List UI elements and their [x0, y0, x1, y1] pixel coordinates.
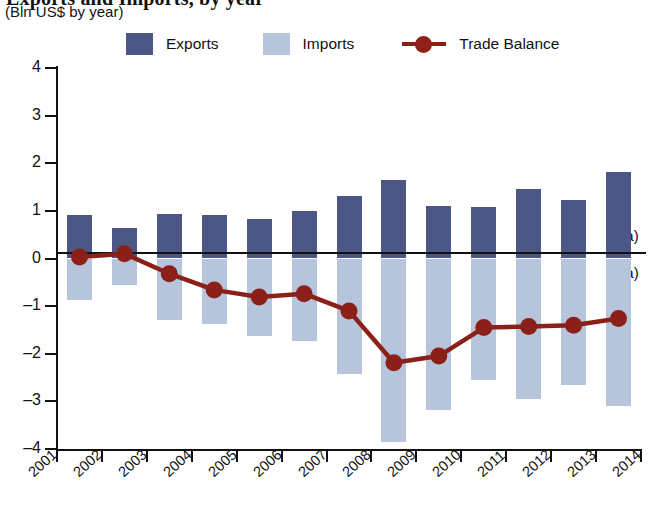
x-axis — [56, 449, 641, 451]
bar-export — [606, 172, 631, 259]
bar-export — [561, 200, 586, 258]
bar-import — [112, 259, 137, 285]
x-axis-tick-label: 2007 — [295, 446, 330, 479]
bar-import — [561, 259, 586, 385]
y-axis-tick-label: 0 — [15, 249, 41, 267]
y-axis-tick — [45, 115, 57, 117]
y-axis-tick-label: 2 — [15, 153, 41, 171]
bar-import — [67, 259, 92, 301]
bar-export — [426, 206, 451, 258]
y-axis-tick — [45, 162, 57, 164]
y-axis-tick-label: –3 — [15, 391, 41, 409]
x-axis-tick-label: 2013 — [564, 446, 599, 479]
bar-export — [337, 196, 362, 259]
bar-import — [471, 259, 496, 380]
zero-baseline — [56, 252, 646, 254]
y-axis-tick-label: 3 — [15, 106, 41, 124]
x-axis-tick-label: 2009 — [384, 446, 419, 479]
bar-import — [202, 259, 227, 325]
x-axis-tick-label: 2003 — [115, 446, 150, 479]
chart-plot: 43210–1–2–3–4 20012002200320042005200620… — [0, 0, 661, 511]
bar-export — [471, 207, 496, 259]
x-axis-tick-label: 2006 — [250, 446, 285, 479]
y-axis-tick — [45, 305, 57, 307]
bar-import — [516, 259, 541, 399]
y-axis-tick-label: 1 — [15, 201, 41, 219]
bar-import — [337, 259, 362, 374]
y-axis-tick — [45, 67, 57, 69]
x-axis-tick-label: 2011 — [474, 447, 508, 480]
bar-import — [606, 259, 631, 407]
bar-import — [247, 259, 272, 337]
y-axis-tick-label: –2 — [15, 344, 41, 362]
y-axis-tick — [45, 210, 57, 212]
x-axis-tick-label: 2014 — [609, 446, 644, 479]
y-axis-tick-label: –4 — [15, 439, 41, 457]
x-axis-tick-label: 2012 — [519, 446, 554, 479]
x-axis-tick-label: 2008 — [339, 446, 374, 479]
y-axis-tick — [45, 353, 57, 355]
bar-import — [426, 259, 451, 410]
x-axis-tick-label: 2004 — [160, 446, 195, 479]
bar-import — [157, 259, 182, 321]
bar-import — [381, 259, 406, 442]
x-axis-tick-label: 2002 — [70, 446, 105, 479]
y-axis-tick-label: 4 — [15, 58, 41, 76]
x-axis-tick-label: 2005 — [205, 446, 240, 479]
y-axis-tick — [45, 258, 57, 260]
y-axis-tick — [45, 400, 57, 402]
bar-export — [516, 189, 541, 259]
x-axis-tick-label: 2010 — [429, 446, 464, 479]
bar-export — [381, 180, 406, 259]
y-axis-tick-label: –1 — [15, 296, 41, 314]
bar-import — [292, 259, 317, 341]
